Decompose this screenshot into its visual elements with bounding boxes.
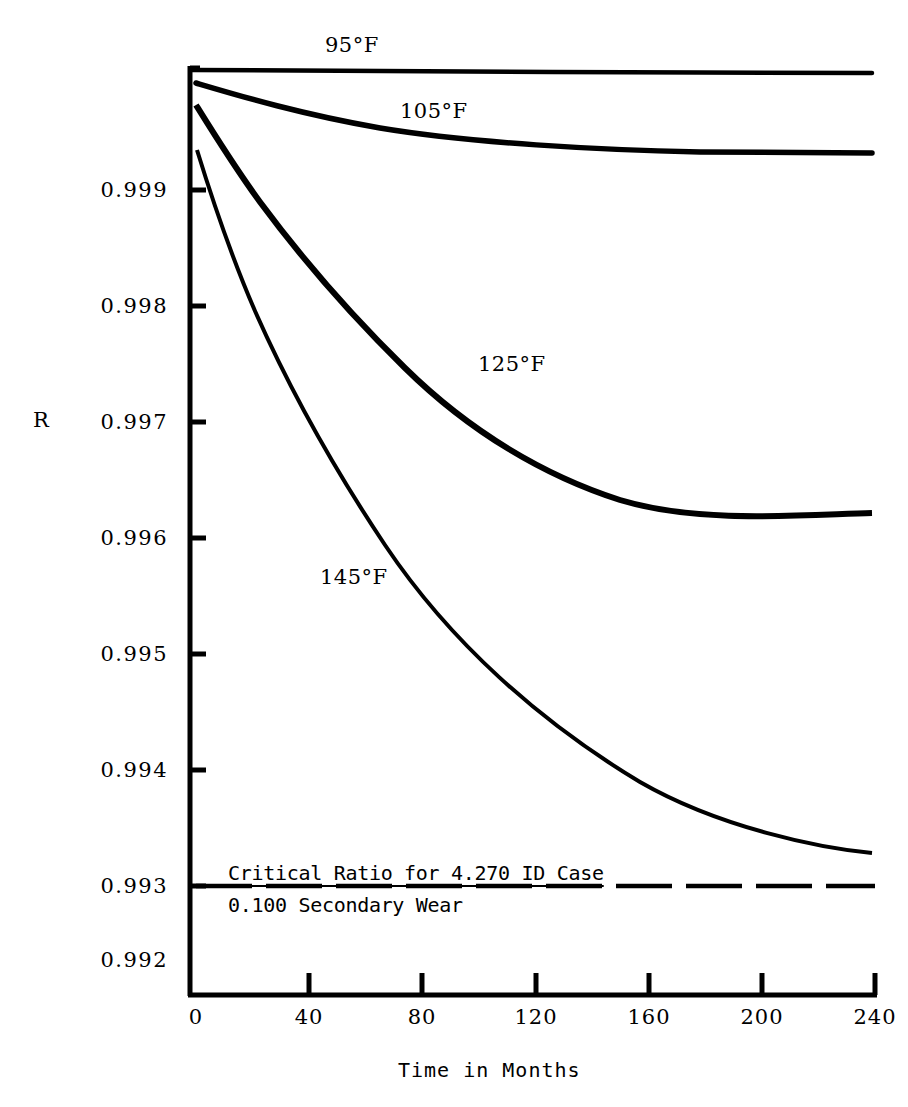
x-tick-label: 160 — [614, 1005, 684, 1029]
chart-figure: 0.999 0.998 0.997 0.996 0.995 0.994 0.99… — [0, 0, 908, 1107]
y-axis-title: R — [33, 408, 49, 432]
critical-ratio-label-above: Critical Ratio for 4.270 ID Case — [228, 861, 604, 885]
y-tick-label: 0.996 — [48, 526, 168, 550]
x-tick-label: 0 — [161, 1005, 231, 1029]
y-tick-label: 0.992 — [48, 948, 168, 972]
series-label-105F: 105°F — [400, 99, 468, 123]
series-curve-95F — [192, 70, 872, 73]
y-tick-label: 0.993 — [48, 874, 168, 898]
series-label-125F: 125°F — [478, 352, 546, 376]
series-label-145F: 145°F — [320, 565, 388, 589]
x-axis-ticks — [309, 973, 875, 995]
x-tick-label: 200 — [727, 1005, 797, 1029]
series-label-95F: 95°F — [325, 33, 379, 57]
x-tick-label: 40 — [274, 1005, 344, 1029]
x-tick-label: 120 — [501, 1005, 571, 1029]
chart-canvas — [0, 0, 908, 1107]
x-tick-label: 80 — [387, 1005, 457, 1029]
x-axis-title: Time in Months — [398, 1058, 581, 1082]
y-tick-label: 0.997 — [48, 410, 168, 434]
y-tick-label: 0.999 — [48, 178, 168, 202]
y-tick-label: 0.994 — [48, 758, 168, 782]
x-tick-label: 240 — [840, 1005, 908, 1029]
series-curve-105F — [196, 83, 872, 153]
y-tick-label: 0.995 — [48, 642, 168, 666]
series-curve-125F — [196, 105, 872, 516]
axis-lines — [188, 66, 877, 996]
y-tick-label: 0.998 — [48, 294, 168, 318]
critical-ratio-label-below: 0.100 Secondary Wear — [228, 893, 463, 917]
